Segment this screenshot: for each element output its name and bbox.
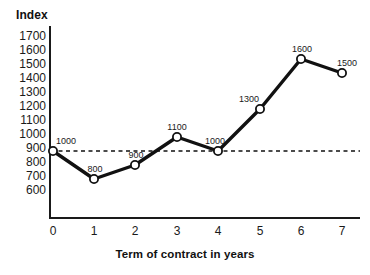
data-point-marker xyxy=(214,147,222,155)
x-tick-label: 6 xyxy=(289,224,313,238)
x-tick-label: 4 xyxy=(206,224,230,238)
data-point-marker xyxy=(173,133,181,141)
data-point-label: 1000 xyxy=(49,136,83,146)
x-tick-label: 1 xyxy=(82,224,106,238)
data-point-label: 1300 xyxy=(232,94,266,104)
x-tick-label: 5 xyxy=(248,224,272,238)
x-axis-title: Term of contract in years xyxy=(0,248,370,260)
line-chart: Index 1700 1600 1500 1400 1300 1200 1100… xyxy=(0,0,370,275)
data-point-label: 1500 xyxy=(330,58,364,68)
data-point-label: 1100 xyxy=(160,122,194,132)
data-point-marker xyxy=(338,69,346,77)
data-point-label: 1000 xyxy=(198,136,232,146)
data-point-label: 1600 xyxy=(285,44,319,54)
data-point-marker xyxy=(297,55,305,63)
data-point-marker xyxy=(256,105,264,113)
data-point-label: 900 xyxy=(119,150,153,160)
x-tick-label: 3 xyxy=(165,224,189,238)
x-tick-label: 2 xyxy=(123,224,147,238)
data-point-label: 800 xyxy=(78,164,112,174)
data-line-index xyxy=(53,59,342,179)
data-point-marker xyxy=(90,175,98,183)
x-tick-label: 7 xyxy=(330,224,354,238)
x-tick-label: 0 xyxy=(41,224,65,238)
data-point-marker xyxy=(131,161,139,169)
data-point-marker xyxy=(49,147,57,155)
